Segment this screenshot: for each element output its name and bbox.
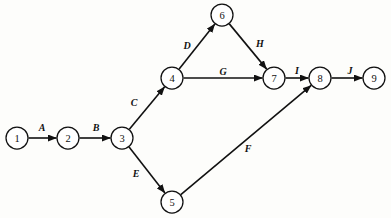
diagram-canvas: ABCDEFGHIJ 123456789: [0, 0, 391, 218]
edge-label-c: C: [131, 97, 138, 108]
node-7[interactable]: 7: [263, 67, 285, 89]
node-label-3: 3: [119, 133, 124, 144]
edge-f: [181, 85, 311, 194]
node-label-7: 7: [271, 73, 276, 84]
edge-label-i: I: [294, 65, 300, 76]
node-label-2: 2: [65, 133, 70, 144]
edge-label-j: J: [347, 65, 354, 76]
node-label-9: 9: [371, 73, 376, 84]
edge-label-b: B: [92, 122, 100, 133]
node-label-8: 8: [317, 73, 322, 84]
node-5[interactable]: 5: [161, 191, 183, 213]
node-label-6: 6: [219, 10, 224, 21]
edge-label-f: F: [244, 143, 252, 154]
edge-label-g: G: [219, 66, 227, 77]
edges-layer: [29, 24, 363, 195]
activity-network-diagram: ABCDEFGHIJ 123456789: [0, 0, 391, 218]
edge-labels-layer: ABCDEFGHIJ: [38, 38, 354, 179]
node-label-1: 1: [14, 133, 19, 144]
node-3[interactable]: 3: [111, 127, 133, 149]
edge-label-h: H: [255, 38, 265, 49]
edge-label-a: A: [38, 122, 46, 133]
node-9[interactable]: 9: [363, 67, 385, 89]
node-2[interactable]: 2: [57, 127, 79, 149]
node-label-4: 4: [169, 73, 175, 84]
node-1[interactable]: 1: [6, 127, 28, 149]
node-4[interactable]: 4: [161, 67, 183, 89]
node-8[interactable]: 8: [309, 67, 331, 89]
node-label-5: 5: [169, 197, 174, 208]
edge-label-e: E: [132, 168, 140, 179]
edge-c: [129, 87, 164, 129]
edge-label-d: D: [182, 40, 190, 51]
node-6[interactable]: 6: [211, 4, 233, 26]
